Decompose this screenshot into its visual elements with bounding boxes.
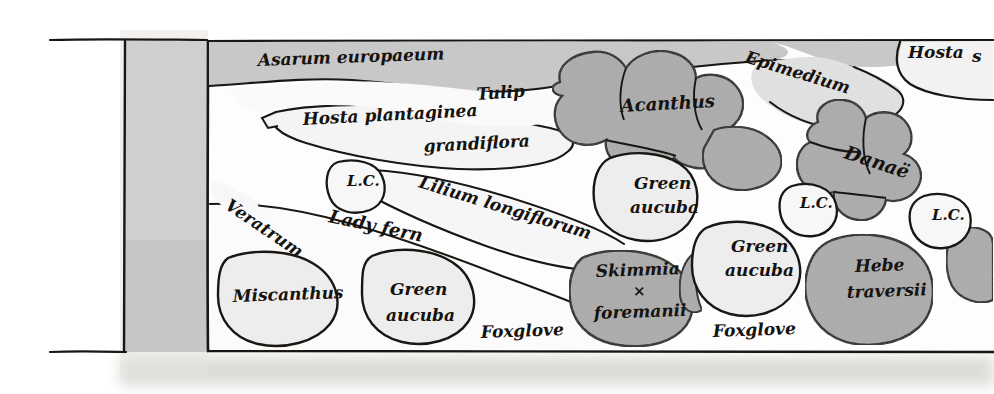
- plant-label-green-aucuba-left-line1: Green: [390, 279, 447, 299]
- plant-label-skimmia-foremanii: foremanii: [592, 300, 686, 323]
- garden-plan-scene: Asarum europaeumEpimediumHostasTulipAcan…: [0, 0, 994, 394]
- plant-label-lc-middle: L.C.: [799, 194, 833, 212]
- plant-label-green-aucuba-right-line2: aucuba: [725, 260, 794, 280]
- gravel-path-band: [124, 41, 207, 352]
- plant-label-skimmia-line1: Skimmia: [595, 258, 680, 281]
- plant-label-miscanthus: Miscanthus: [231, 282, 344, 306]
- plant-label-foxglove-right: Foxglove: [711, 318, 796, 341]
- plant-label-lc-left: L.C.: [346, 172, 380, 190]
- plant-label-foxglove-left: Foxglove: [479, 319, 564, 342]
- plant-label-green-aucuba-centre-line1: Green: [634, 173, 691, 193]
- plant-label-green-aucuba-right-line1: Green: [731, 236, 788, 256]
- garden-plan-drawing: Asarum europaeumEpimediumHostasTulipAcan…: [0, 0, 994, 394]
- plant-label-hosta-continuation-clipped: s: [971, 46, 982, 66]
- plant-label-lc-right: L.C.: [931, 206, 965, 224]
- plant-label-hebe-traversii: traversii: [846, 279, 927, 302]
- plant-label-tulip: Tulip: [476, 81, 526, 104]
- plant-label-green-aucuba-left-line2: aucuba: [386, 305, 455, 325]
- plant-label-green-aucuba-centre-line2: aucuba: [630, 197, 699, 217]
- plant-label-hebe-line1: Hebe: [853, 254, 904, 276]
- plant-label-skimmia-cross: ×: [633, 282, 646, 300]
- plant-label-hosta: Hosta: [907, 42, 964, 62]
